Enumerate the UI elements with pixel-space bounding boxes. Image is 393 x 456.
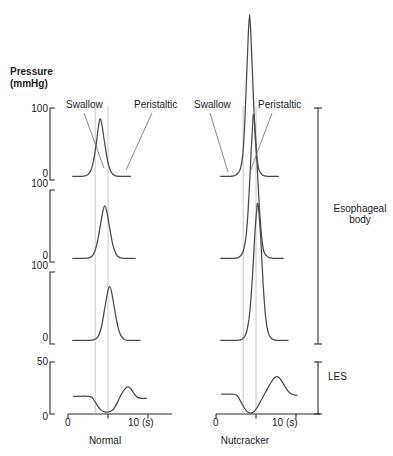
y-axis-bracket-les [50,362,55,414]
y-axis-bracket-esophageal-body-middle [50,190,55,262]
trace-nutcracker-lower-esophageal-body [221,203,288,340]
trace-normal-upper-esophageal-body [73,119,131,177]
y-axis-bracket-esophageal-body-upper [50,108,55,180]
manometry-figure: Pressure (mmHg) 100 0 100 0 100 0 50 0 S… [0,0,393,456]
y-axis-bracket-esophageal-body-lower [50,272,55,344]
trace-normal-middle-esophageal-body [73,206,135,259]
trace-nutcracker-middle-esophageal-body [221,114,283,258]
trace-normal-lower-esophageal-body [73,286,140,340]
trace-nutcracker-les [222,377,297,413]
trace-normal-les [74,387,147,412]
leader-peristaltic-normal [126,113,152,170]
manometry-plot-svg [0,0,393,456]
trace-nutcracker-upper-esophageal-body [221,14,279,176]
leader-swallow-nutcracker [210,113,228,172]
